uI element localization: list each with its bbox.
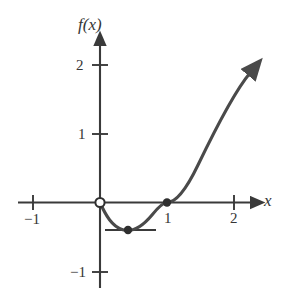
- y-tick-label-1: 1: [78, 127, 86, 142]
- local-minimum-point: [124, 226, 132, 234]
- function-graph-figure: −1 1 2 2 1 −1 f(x) x: [0, 0, 284, 303]
- function-curve: [100, 73, 250, 230]
- x-axis-label: x: [264, 192, 272, 209]
- x-tick-label--1: −1: [24, 212, 40, 227]
- x-intercept-point: [163, 198, 171, 206]
- x-tick-label-2: 2: [230, 211, 238, 226]
- origin-hole-open-circle: [95, 198, 104, 207]
- x-tick-label-1: 1: [164, 211, 172, 226]
- y-tick-label-2: 2: [76, 58, 84, 73]
- y-tick-label--1: −1: [70, 265, 86, 280]
- graph-canvas: [0, 0, 284, 303]
- y-axis-label: f(x): [78, 16, 102, 33]
